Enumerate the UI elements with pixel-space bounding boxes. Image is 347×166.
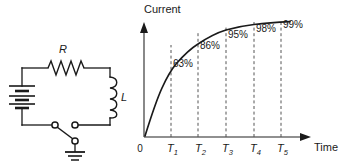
data-label-98: 98% — [256, 23, 276, 34]
rl-circuit-current-rise-figure: R L — [0, 0, 347, 166]
current-curve — [145, 22, 290, 136]
data-label-86: 86% — [200, 40, 220, 51]
x-tick-t3: T3 — [222, 142, 234, 157]
switch-pivot — [72, 138, 78, 144]
data-label-95: 95% — [228, 29, 248, 40]
y-axis-label: Current — [144, 3, 181, 15]
inductor-icon — [110, 77, 117, 118]
battery-icon — [9, 86, 35, 108]
switch-icon — [52, 122, 78, 152]
figure-canvas: R L — [0, 0, 347, 166]
x-tick-t5: T5 — [277, 142, 289, 157]
x-axis-label: Time — [314, 141, 338, 153]
current-rise-chart: Current Time 0 63% 86% 95% — [137, 3, 338, 157]
x-tick-t1: T1 — [167, 142, 178, 157]
x-tick-t4: T4 — [250, 142, 261, 157]
x-axis — [144, 133, 311, 141]
data-label-99: 99% — [283, 19, 303, 30]
resistor-icon — [48, 61, 84, 75]
x-tick-labels: T1 T2 T3 T4 T5 — [167, 142, 289, 157]
origin-label: 0 — [137, 143, 143, 154]
inductor-label: L — [121, 91, 127, 103]
switch-terminal-right — [72, 122, 78, 128]
resistor-label: R — [59, 43, 67, 55]
ground-icon — [65, 152, 85, 160]
circuit-diagram: R L — [9, 43, 127, 160]
x-tick-t2: T2 — [195, 142, 207, 157]
data-label-63: 63% — [173, 58, 193, 69]
switch-blade — [57, 127, 73, 139]
y-axis — [140, 22, 148, 137]
dashed-verticals — [171, 20, 281, 137]
